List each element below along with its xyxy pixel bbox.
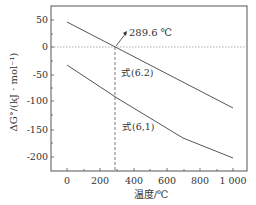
y-tick-label: -50 <box>33 69 48 80</box>
annotation-arrow <box>116 33 126 46</box>
arrow-head-icon <box>123 31 127 36</box>
series-6-1-label: 式(6,1) <box>122 121 155 132</box>
y-tick-label: -150 <box>27 124 48 135</box>
x-axis-title: 温度/℃ <box>134 188 169 200</box>
x-tick-label: 600 <box>158 175 176 186</box>
y-tick-label: -100 <box>27 95 48 106</box>
x-tick-label: 1 000 <box>219 175 246 186</box>
x-tick-label: 800 <box>191 175 209 186</box>
x-tick-label: 400 <box>125 175 143 186</box>
series-6-1-line <box>67 65 233 158</box>
series-6-2-label: 式(6.2) <box>121 67 154 78</box>
crossover-annotation: 289.6 ℃ <box>129 27 172 38</box>
gibbs-energy-chart: 289.6 ℃ 式(6.2) 式(6,1) 50 0 -50 -100 -150… <box>0 0 256 205</box>
y-axis-title: ΔG°/(kJ · mol⁻¹) <box>8 52 19 131</box>
x-tick-label: 200 <box>91 175 109 186</box>
y-tick-label: 0 <box>42 41 48 52</box>
y-tick-label: -200 <box>27 151 48 162</box>
x-tick-label: 0 <box>64 175 70 186</box>
y-tick-label: 50 <box>36 14 48 25</box>
